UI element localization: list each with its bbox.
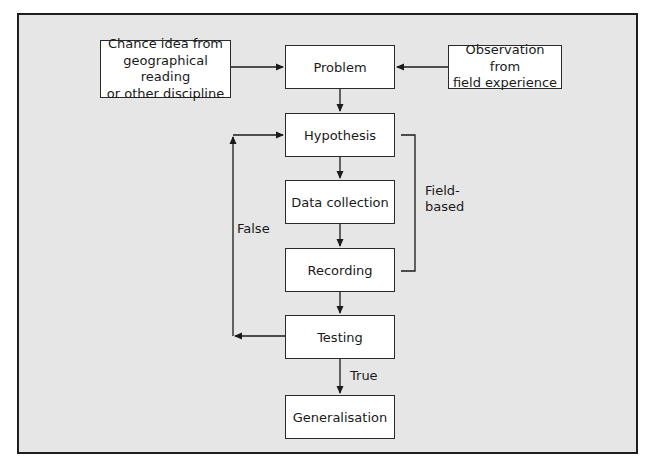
chance-idea-box: Chance idea from geographical reading or… [100,40,231,98]
false-label: False [237,221,270,237]
step-data-collection-label: Data collection [291,194,389,211]
chance-idea-line-1: Chance idea from [101,36,230,53]
field-based-label: Field- based [425,183,464,215]
step-generalisation: Generalisation [285,395,395,439]
field-based-bracket [401,135,415,271]
chance-idea-line-3: or other discipline [101,86,230,103]
observation-box: Observation from field experience [448,45,562,89]
chance-idea-line-2: geographical reading [101,53,230,86]
step-data-collection: Data collection [285,180,395,224]
step-generalisation-label: Generalisation [293,409,388,426]
field-based-line-2: based [425,199,464,215]
step-testing: Testing [285,315,395,359]
step-hypothesis-label: Hypothesis [304,127,376,144]
step-testing-label: Testing [317,329,363,346]
field-based-line-1: Field- [425,183,464,199]
observation-line-2: field experience [449,75,561,92]
step-hypothesis: Hypothesis [285,113,395,157]
true-label: True [350,368,378,384]
step-recording: Recording [285,248,395,292]
step-problem-label: Problem [313,59,366,76]
observation-line-1: Observation from [449,42,561,75]
step-recording-label: Recording [307,262,372,279]
step-problem: Problem [285,45,395,89]
